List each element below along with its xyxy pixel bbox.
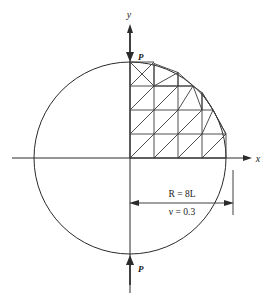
top-load-group: P xyxy=(126,33,144,62)
finite-element-mesh xyxy=(130,62,226,158)
mesh-diag-r3-c4 xyxy=(202,93,213,111)
mesh-diag-r2-c4b xyxy=(213,110,226,134)
x-axis-label: x xyxy=(255,153,261,164)
top-load-arrowhead xyxy=(126,52,134,62)
mesh-diag-r2-c4 xyxy=(202,110,213,134)
y-axis-arrowhead xyxy=(127,24,133,33)
figure-container: x y P P xyxy=(0,0,272,302)
mesh-diag-r1-c1 xyxy=(130,134,154,158)
mesh-arc-edge-1 xyxy=(178,73,193,87)
disk-compression-diagram: x y P P xyxy=(0,0,272,302)
mesh-diag-r3-c3 xyxy=(178,86,193,110)
mesh-diag-r1-c4 xyxy=(202,134,226,158)
radius-dimension-label: R = 8L xyxy=(169,189,196,199)
y-axis-label: y xyxy=(126,9,132,20)
poisson-ratio-label: ν = 0.3 xyxy=(169,207,196,217)
top-load-label: P xyxy=(138,52,144,62)
mesh-diag-r3-c2 xyxy=(154,86,178,110)
mesh-diag-r2-c3 xyxy=(178,110,202,134)
mesh-diag-r1-c2 xyxy=(154,134,178,158)
bottom-load-arrowhead xyxy=(126,255,134,265)
mesh-diag-r2-c1 xyxy=(130,110,154,134)
bottom-load-group: P xyxy=(126,255,144,285)
mesh-arc-edge-0 xyxy=(154,64,178,73)
bottom-load-label: P xyxy=(138,264,144,274)
mesh-diag-r2-c2 xyxy=(154,110,178,134)
mesh-diag-r4-c2 xyxy=(154,73,178,87)
mesh-diag-r1-c3 xyxy=(178,134,202,158)
x-axis-arrowhead xyxy=(243,155,252,161)
mesh-diag-r3-c1 xyxy=(130,86,154,110)
dimension-arrow-right xyxy=(224,200,234,206)
